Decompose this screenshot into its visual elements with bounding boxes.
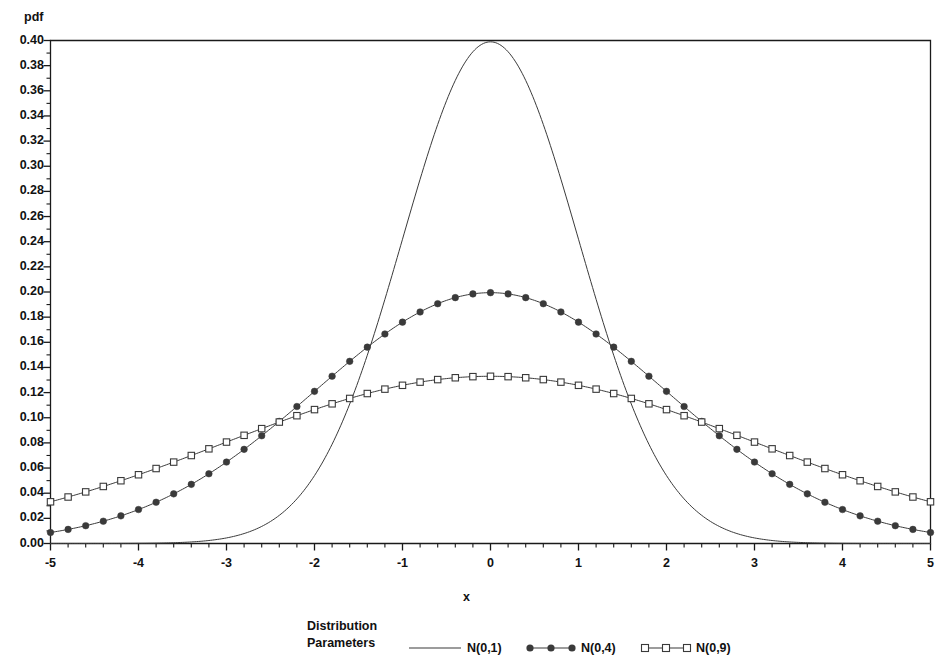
series-marker	[892, 489, 898, 495]
legend-label-n09: N(0,9)	[696, 641, 731, 655]
series-marker	[628, 395, 634, 401]
series-marker	[206, 446, 212, 452]
series-marker	[505, 373, 511, 379]
series-marker	[188, 452, 194, 458]
series-marker	[540, 300, 547, 307]
series-marker	[487, 373, 493, 379]
y-tick-label: 0.18	[0, 309, 44, 323]
series-marker	[751, 439, 757, 445]
y-tick-label: 0.14	[0, 359, 44, 373]
series-marker	[276, 419, 282, 425]
series-marker	[681, 413, 687, 419]
series-marker	[839, 472, 845, 478]
series-marker	[135, 506, 142, 513]
series-marker	[188, 481, 195, 488]
series-marker	[135, 472, 141, 478]
legend-sample-open-square-icon	[640, 641, 692, 655]
series-marker	[118, 513, 125, 520]
series-marker	[47, 529, 54, 536]
y-tick-label: 0.20	[0, 284, 44, 298]
series-marker	[399, 319, 406, 326]
series-marker	[171, 459, 177, 465]
series-marker	[417, 379, 423, 385]
series-marker	[751, 459, 758, 466]
series-marker	[716, 432, 723, 439]
series-marker	[857, 513, 864, 520]
series-marker	[382, 386, 388, 392]
series-marker	[170, 491, 177, 498]
series-marker	[699, 419, 705, 425]
series-marker	[65, 494, 71, 500]
series-marker	[575, 319, 582, 326]
series-marker	[857, 478, 863, 484]
series-marker	[804, 459, 810, 465]
series-marker	[206, 470, 213, 477]
series-marker	[505, 291, 512, 298]
series-marker	[311, 388, 318, 395]
chart-container: pdf x 0.000.020.040.060.080.100.120.140.…	[0, 0, 950, 663]
x-tick-label: -5	[31, 556, 71, 570]
series-marker	[804, 491, 811, 498]
series-marker	[311, 406, 317, 412]
series-marker	[663, 406, 669, 412]
series-marker	[47, 499, 53, 505]
x-tick-label: 3	[735, 556, 775, 570]
x-tick-label: -4	[119, 556, 159, 570]
series-marker	[452, 294, 459, 301]
series-marker	[153, 465, 159, 471]
series-marker	[610, 344, 617, 351]
series-marker	[364, 344, 371, 351]
series-marker	[523, 375, 529, 381]
y-tick-label: 0.24	[0, 234, 44, 248]
y-tick-label: 0.36	[0, 83, 44, 97]
legend-item-n01[interactable]: N(0,1)	[407, 638, 502, 658]
y-tick-label: 0.22	[0, 259, 44, 273]
series-marker	[258, 432, 265, 439]
series-marker	[558, 379, 564, 385]
series-marker	[329, 373, 336, 380]
series-marker	[65, 526, 72, 533]
series-marker	[434, 300, 441, 307]
series-marker	[241, 446, 248, 453]
x-tick-label: -3	[207, 556, 247, 570]
y-tick-label: 0.12	[0, 385, 44, 399]
axis-ticks	[44, 41, 931, 551]
series-marker	[734, 432, 740, 438]
y-tick-label: 0.10	[0, 410, 44, 424]
series-marker	[558, 309, 565, 316]
series-marker	[910, 526, 917, 533]
legend-label-n01: N(0,1)	[467, 641, 502, 655]
legend-label-n04: N(0,4)	[581, 641, 616, 655]
legend-item-n04[interactable]: N(0,4)	[525, 638, 616, 658]
data-series-group	[47, 42, 934, 544]
series-marker	[223, 439, 229, 445]
series-marker	[646, 401, 652, 407]
series-marker	[593, 331, 600, 338]
chart-legend: Distribution Parameters N(0,1) N(0,4)	[307, 618, 727, 660]
series-marker	[364, 390, 370, 396]
series-marker	[118, 478, 124, 484]
series-marker	[435, 376, 441, 382]
series-marker	[927, 499, 933, 505]
series-marker	[399, 382, 405, 388]
series-marker	[593, 386, 599, 392]
legend-item-n09[interactable]: N(0,9)	[640, 638, 731, 658]
series-marker	[259, 425, 265, 431]
series-marker	[83, 489, 89, 495]
y-tick-label: 0.04	[0, 485, 44, 499]
series-marker	[417, 309, 424, 316]
series-marker	[716, 425, 722, 431]
series-line-n04	[51, 293, 931, 533]
legend-title-line-1: Distribution	[307, 618, 417, 635]
legend-sample-line-icon	[407, 641, 463, 655]
series-marker	[100, 518, 107, 525]
series-marker	[822, 465, 828, 471]
series-marker	[875, 483, 881, 489]
series-marker	[787, 452, 793, 458]
series-marker	[874, 518, 881, 525]
y-tick-label: 0.32	[0, 133, 44, 147]
y-tick-label: 0.38	[0, 58, 44, 72]
x-tick-label: 2	[647, 556, 687, 570]
y-tick-label: 0.40	[0, 33, 44, 47]
series-marker	[100, 483, 106, 489]
